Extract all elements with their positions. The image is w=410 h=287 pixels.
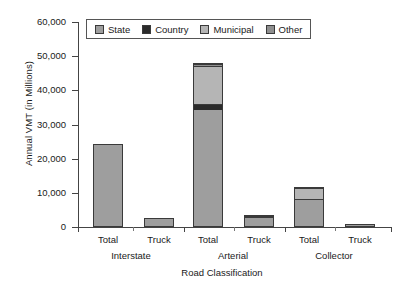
bar-arterial-truck [244, 215, 274, 227]
y-tick-label: 50,000 [37, 50, 66, 61]
x-group-separator [285, 227, 286, 232]
x-tick-label: Truck [330, 234, 390, 245]
chart-legend: StateCountryMunicipalOther [86, 19, 311, 39]
legend-swatch-icon [200, 25, 209, 34]
x-minor-tick [335, 227, 336, 231]
x-minor-tick [234, 227, 235, 231]
bar-segment-state [194, 110, 222, 226]
x-minor-tick [133, 227, 134, 231]
legend-swatch-icon [142, 25, 151, 34]
y-tick-label: 0 [61, 221, 66, 232]
legend-label: Country [155, 24, 188, 35]
bar-interstate-truck [144, 218, 174, 227]
bar-segment-state [94, 145, 122, 226]
legend-swatch-icon [266, 25, 275, 34]
bar-collector-total [294, 187, 324, 227]
bar-segment-municipal [194, 66, 222, 104]
x-axis-title: Road Classification [0, 267, 410, 278]
bar-segment-municipal [295, 188, 323, 199]
legend-label: Other [279, 24, 303, 35]
y-tick-label: 20,000 [37, 153, 66, 164]
y-tick-label: 30,000 [37, 119, 66, 130]
bar-segment-state [145, 219, 173, 226]
legend-label: Municipal [213, 24, 253, 35]
legend-item-country[interactable]: Country [142, 24, 188, 35]
bar-segment-state [295, 200, 323, 226]
x-axis-line [78, 227, 392, 228]
bar-collector-truck [345, 224, 375, 227]
bar-interstate-total [93, 144, 123, 227]
plot-area [78, 22, 392, 227]
bar-arterial-total [193, 63, 223, 227]
x-group-label-collector: Collector [284, 250, 384, 261]
legend-item-state[interactable]: State [95, 24, 130, 35]
y-tick-label: 40,000 [37, 84, 66, 95]
chart-figure: Annual VMT (in Millions) 010,00020,00030… [0, 0, 410, 287]
y-axis-title: Annual VMT (in Millions) [23, 24, 34, 204]
x-group-label-interstate: Interstate [81, 250, 181, 261]
legend-item-other[interactable]: Other [266, 24, 303, 35]
legend-swatch-icon [95, 25, 104, 34]
y-tick-label: 10,000 [37, 187, 66, 198]
bar-segment-state [245, 218, 273, 226]
x-group-separator [184, 227, 185, 232]
x-group-separator [391, 227, 392, 232]
legend-item-municipal[interactable]: Municipal [200, 24, 253, 35]
x-group-label-arterial: Arterial [183, 250, 283, 261]
x-group-separator [78, 227, 79, 232]
bar-segment-state [346, 225, 374, 226]
legend-label: State [108, 24, 130, 35]
y-tick-label: 60,000 [37, 16, 66, 27]
